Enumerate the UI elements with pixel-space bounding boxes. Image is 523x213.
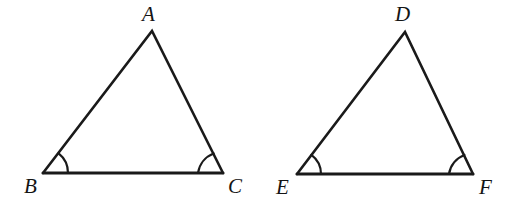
vertex-label-c: C [228, 176, 242, 197]
vertex-label-e: E [276, 177, 289, 198]
figure-canvas [0, 0, 523, 213]
vertex-label-b: B [24, 176, 37, 197]
triangle-abc-sides [43, 31, 223, 173]
vertex-label-a: A [142, 4, 155, 25]
angle-arc-f [449, 155, 464, 174]
vertex-label-f: F [479, 177, 492, 198]
angle-arc-b [59, 153, 68, 173]
triangle-def [297, 32, 473, 174]
triangle-abc [43, 31, 223, 173]
angle-arc-c [198, 154, 214, 174]
vertex-label-d: D [395, 4, 410, 25]
angle-arc-e [311, 155, 321, 174]
geometry-figure: A B C D E F [0, 0, 523, 213]
triangle-def-sides [297, 32, 473, 174]
